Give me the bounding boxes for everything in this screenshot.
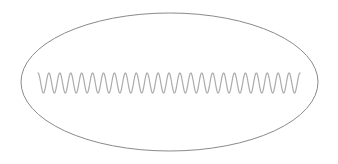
sine-wave <box>38 73 300 93</box>
diagram-canvas <box>0 0 338 164</box>
ellipse-shape <box>21 13 318 151</box>
